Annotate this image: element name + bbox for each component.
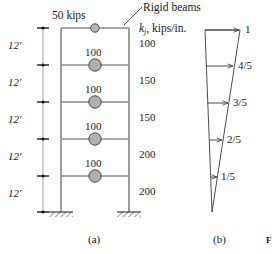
mass-label-1: 100 — [85, 158, 102, 169]
mass-node-3 — [89, 96, 101, 108]
story-height-label-2: 12' — [8, 151, 21, 162]
caption-panel-b: (b) — [213, 234, 226, 245]
mass-node-5 — [91, 24, 99, 32]
mass-node-1 — [89, 170, 101, 182]
mode-label-5: 1 — [245, 24, 251, 35]
mass-label-4: 100 — [85, 47, 102, 58]
story-height-label-3: 12' — [8, 114, 21, 125]
mass-node-2 — [89, 133, 101, 145]
mass-node-4 — [89, 59, 101, 71]
support-left — [49, 212, 73, 217]
mode-label-1: 1/5 — [221, 171, 235, 182]
stiffness-value-4: 150 — [139, 75, 156, 86]
mass-label-2: 100 — [85, 121, 102, 132]
stiffness-value-5: 100 — [139, 38, 156, 49]
mode-label-4: 4/5 — [238, 60, 252, 71]
mass-label-3: 100 — [85, 84, 102, 95]
mode-label-3: 3/5 — [233, 97, 247, 108]
mode-reference-axis — [205, 30, 212, 212]
mode-envelope-line — [212, 30, 240, 212]
figure-marker: F — [266, 236, 272, 245]
top-load-label: 50 kips — [52, 10, 86, 22]
stiffness-value-2: 200 — [139, 149, 156, 160]
figure-drawing-canvas — [0, 0, 274, 254]
mode-shape-diagram — [205, 30, 240, 212]
mode-label-2: 2/5 — [227, 134, 241, 145]
story-height-label-5: 12' — [8, 40, 21, 51]
structural-frame-figure: 12' 12' 12' 12' 12' 50 kips Rigid beams … — [0, 0, 274, 254]
support-right — [117, 212, 141, 217]
frame-structure — [49, 7, 142, 217]
story-height-label-4: 12' — [8, 77, 21, 88]
stiffness-header: kj, kips/in. — [139, 23, 186, 36]
dimension-chain — [37, 26, 49, 213]
stiffness-units: , kips/in. — [146, 22, 186, 34]
rigid-beams-label: Rigid beams — [143, 2, 201, 14]
stiffness-value-3: 150 — [139, 112, 156, 123]
stiffness-value-1: 200 — [139, 186, 156, 197]
caption-panel-a: (a) — [88, 234, 100, 245]
story-height-label-1: 12' — [8, 188, 21, 199]
